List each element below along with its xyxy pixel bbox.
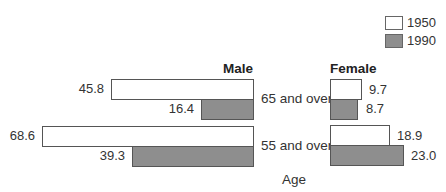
value-male-65-1950: 45.8 [40,79,104,99]
bar-female-65-1950 [330,79,362,100]
legend-swatch-1990 [385,34,403,48]
male-panel-title: Male [200,61,253,77]
legend-label-1990: 1990 [407,34,436,48]
bar-female-65-1990 [330,99,358,120]
female-panel-title: Female [330,61,377,77]
category-55-and-over: 55 and over [261,136,332,156]
value-female-55-1950: 18.9 [397,126,422,146]
value-female-65-1950: 9.7 [369,80,387,100]
bar-female-55-1950 [330,125,390,146]
bar-female-55-1990 [330,145,404,166]
value-female-55-1990: 23.0 [411,146,436,166]
value-male-65-1990: 16.4 [130,99,194,119]
bar-male-55-1990 [132,146,254,167]
bar-male-65-1990 [201,99,254,120]
legend-label-1950: 1950 [407,16,436,30]
axis-label-age: Age [282,170,306,190]
legend-swatch-1950 [385,16,403,30]
category-65-and-over: 65 and over [261,89,332,109]
value-male-55-1950: 68.6 [0,126,35,146]
bar-male-65-1950 [111,79,254,100]
value-female-65-1990: 8.7 [366,99,384,119]
value-male-55-1990: 39.3 [60,146,125,166]
bar-male-55-1950 [42,126,254,147]
